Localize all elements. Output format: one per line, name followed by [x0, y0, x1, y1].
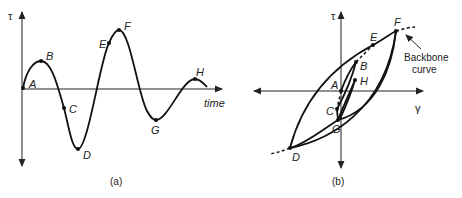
- point-b-dot: [39, 59, 43, 63]
- point-f-dot: [117, 28, 121, 32]
- point-h-dot-b: [353, 78, 357, 82]
- time-axis-label: time: [204, 97, 225, 109]
- panel-b-caption: (b): [332, 176, 344, 187]
- point-h-label: H: [196, 66, 204, 78]
- panel-b: τ γ A B C D E F G H Backbone curve (b): [254, 10, 449, 187]
- point-b-label-b: B: [360, 60, 367, 72]
- point-a-label-b: A: [330, 79, 338, 91]
- point-c-dot: [62, 106, 66, 110]
- figure: τ time A B C D E F G H (a): [0, 0, 462, 198]
- point-a-label: A: [28, 78, 36, 90]
- point-b-label: B: [46, 50, 53, 62]
- point-c-dot-b: [335, 107, 339, 111]
- point-f-label-b: F: [394, 16, 402, 28]
- backbone-annotation-line2: curve: [412, 64, 437, 75]
- point-e-label-b: E: [370, 31, 378, 43]
- point-h-label-b: H: [360, 75, 368, 87]
- point-a-dot: [21, 86, 25, 90]
- point-b-dot-b: [354, 60, 358, 64]
- point-c-label-b: C: [326, 105, 334, 117]
- upper-loop-branch: [290, 31, 396, 148]
- backbone-pointer-line: [406, 35, 421, 49]
- panel-a-caption: (a): [110, 176, 122, 187]
- point-e-dot: [107, 41, 111, 45]
- point-g-label: G: [151, 124, 160, 136]
- point-f-label: F: [124, 20, 132, 32]
- point-g-dot: [154, 118, 158, 122]
- point-d-dot-b: [288, 146, 292, 150]
- point-g-dot-b: [336, 118, 340, 122]
- tau-axis-label-b: τ: [331, 10, 336, 22]
- point-e-label: E: [99, 38, 107, 50]
- gamma-axis-label: γ: [415, 102, 421, 114]
- point-d-label: D: [83, 149, 91, 161]
- point-d-dot: [76, 147, 80, 151]
- backbone-annotation-line1: Backbone: [404, 52, 449, 63]
- point-a-dot-b: [339, 89, 343, 93]
- point-f-dot-b: [394, 29, 398, 33]
- point-g-label-b: G: [332, 123, 341, 135]
- point-c-label: C: [69, 103, 77, 115]
- point-d-label-b: D: [292, 151, 300, 163]
- tau-axis-label: τ: [8, 10, 13, 22]
- panel-a: τ time A B C D E F G H (a): [8, 10, 225, 187]
- lower-loop-branch-d-to-f: [290, 31, 396, 148]
- backbone-extension-bottom: [270, 148, 290, 154]
- point-e-dot-b: [371, 43, 375, 47]
